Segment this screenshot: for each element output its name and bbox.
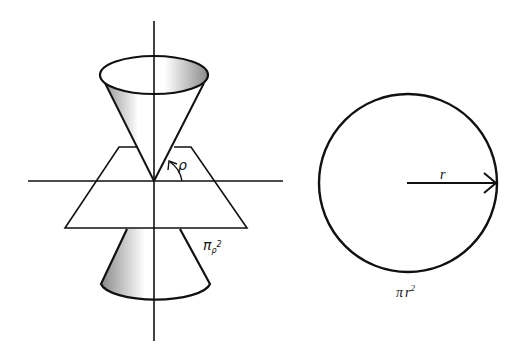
angle-arrow-icon bbox=[168, 161, 177, 170]
circle-figure: r πr2 bbox=[319, 94, 497, 300]
lower-cone bbox=[101, 229, 210, 300]
circle-area-label: πr2 bbox=[396, 283, 415, 300]
double-cone-figure: ρ πρ2 bbox=[28, 21, 283, 341]
plane-area-label: πρ2 bbox=[203, 237, 222, 255]
diagram-canvas: ρ πρ2 r πr2 bbox=[0, 0, 522, 356]
angle-label: ρ bbox=[178, 157, 187, 173]
radius-label: r bbox=[440, 167, 446, 182]
